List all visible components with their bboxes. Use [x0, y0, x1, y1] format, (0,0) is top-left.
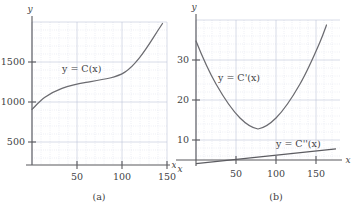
panel-a-grid-horizontal-major [32, 22, 167, 142]
panel-a-ylabel-500: 500 [7, 136, 25, 147]
panel-a-curve-label: y = C(x) [61, 63, 101, 74]
panel-a-ylabel-1000: 1000 [1, 96, 25, 107]
panel-b-x-axis-name: x [345, 155, 350, 165]
panel-b-y-axis-name: y [190, 2, 197, 12]
panel-b-x-axis-name-left: x [177, 164, 182, 174]
panel-b-xlabel-100: 100 [267, 168, 285, 179]
panel-b-xlabel-150: 150 [307, 168, 325, 179]
calculus-figure-two-panels: 1500 1000 500 50 100 150 y x y = C(x) (a… [0, 0, 353, 206]
panel-a-grid-horizontal-minor [32, 30, 167, 158]
panel-b-ylabel-10: 10 [177, 134, 189, 145]
panel-a-xlabel-150: 150 [158, 171, 176, 182]
panel-b-curve-C-prime [196, 25, 327, 129]
panel-a-xlabel-50: 50 [71, 171, 83, 182]
panel-a-plot: 1500 1000 500 50 100 150 y x y = C(x) (a… [0, 0, 176, 206]
panel-b-ylabel-30: 30 [177, 54, 189, 65]
panel-a-y-axis-name: y [26, 4, 33, 14]
panel-b-curve-label-C-prime: y = C'(x) [217, 72, 260, 83]
panel-a-cost-function: 1500 1000 500 50 100 150 y x y = C(x) (a… [0, 0, 176, 206]
panel-b-ylabel-20: 20 [177, 94, 189, 105]
panel-a-xlabel-100: 100 [113, 171, 131, 182]
panel-a-grid-vertical-minor [41, 22, 158, 164]
panel-b-plot: 30 20 10 50 100 150 y x x y = C'(x) y = … [176, 0, 353, 206]
panel-b-caption: (b) [269, 191, 283, 202]
panel-b-curve-label-C-double-prime: y = C''(x) [275, 138, 321, 149]
panel-a-ylabel-1500: 1500 [1, 56, 25, 67]
panel-a-caption: (a) [92, 191, 105, 202]
panel-b-line-C-double-prime [196, 149, 336, 164]
panel-b-xlabel-50: 50 [230, 168, 242, 179]
panel-b-derivative-functions: 30 20 10 50 100 150 y x x y = C'(x) y = … [176, 0, 353, 206]
